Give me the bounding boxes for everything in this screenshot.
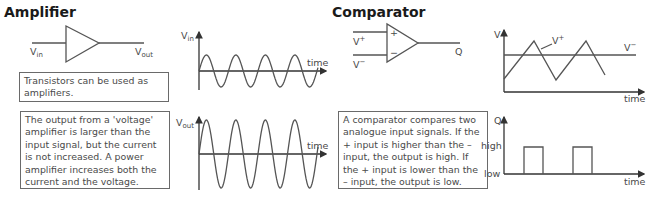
amp-output-x-label: time — [307, 140, 328, 151]
comp-plus-sign: + — [390, 27, 398, 38]
comp-description-box: A comparator compares two analogue input… — [338, 111, 488, 189]
comp-input-graph — [504, 30, 644, 92]
amp-vout-label: Vout — [135, 46, 153, 59]
comp-output-x-label: time — [624, 176, 645, 187]
comp-minus-sign: − — [390, 47, 398, 58]
amp-output-y-label: Vout — [176, 117, 194, 130]
comp-vplus-label: V+ — [353, 35, 365, 47]
pulse-2 — [573, 147, 592, 174]
vplus-triangle-wave — [504, 41, 605, 80]
comp-vminus-label: V− — [353, 58, 365, 70]
comp-q-label: Q — [455, 46, 462, 57]
comp-output-graph — [504, 117, 644, 174]
pulse-1 — [524, 147, 543, 174]
comp-input-vminus-label: V− — [624, 41, 636, 53]
amp-input-y-label: Vin — [181, 30, 194, 43]
amp-note-box: Transistors can be used as amplifiers. — [19, 72, 169, 102]
amp-input-x-label: time — [307, 57, 328, 68]
comp-input-vplus-label: V+ — [552, 34, 564, 46]
comparator-symbol — [353, 24, 460, 62]
amp-description-box: The output from a 'voltage' amplifier is… — [20, 111, 170, 189]
comp-input-x-label: time — [624, 93, 645, 104]
amp-output-graph — [199, 117, 326, 190]
amp-vin-label: Vin — [30, 46, 43, 59]
comp-output-y-label: Q — [494, 115, 501, 126]
comp-output-low-label: low — [484, 168, 500, 179]
comp-input-y-label: V — [494, 29, 501, 40]
comp-output-high-label: high — [481, 140, 502, 151]
amplifier-symbol — [32, 26, 144, 62]
